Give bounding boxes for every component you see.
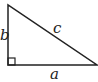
label-b: b (0, 26, 10, 44)
right-triangle-diagram: b c a (0, 0, 98, 82)
right-angle-marker (8, 58, 15, 65)
label-a: a (50, 65, 59, 82)
label-c: c (53, 19, 62, 37)
